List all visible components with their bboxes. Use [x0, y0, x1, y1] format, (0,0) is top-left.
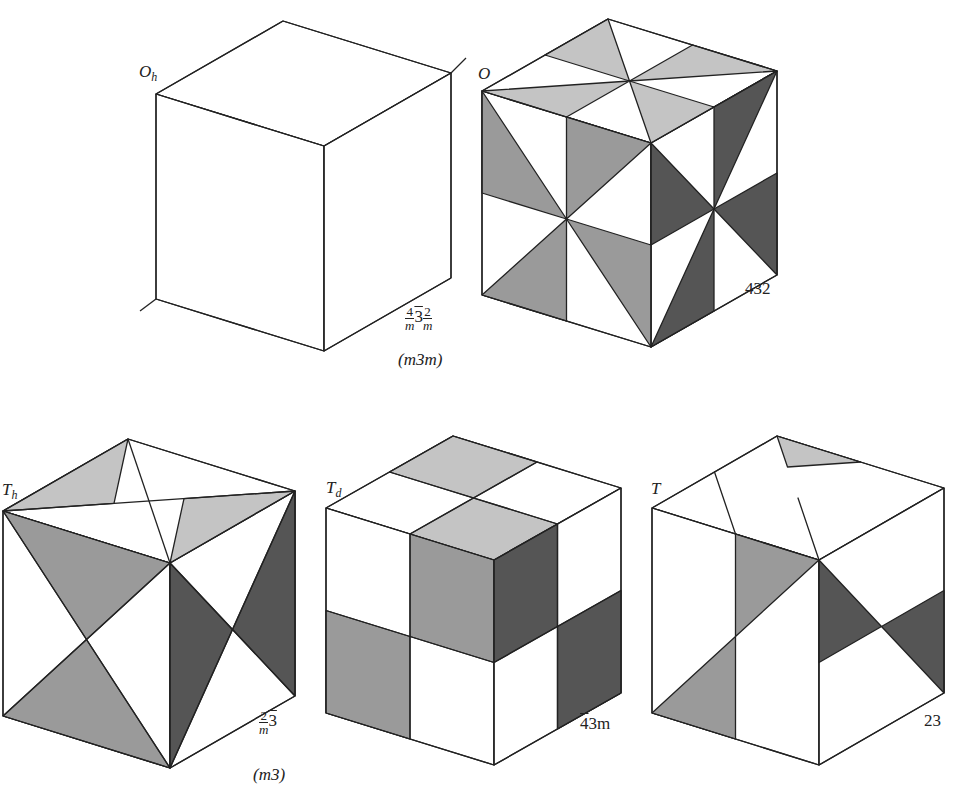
label-Oh: Oh — [139, 63, 157, 83]
point-group-figure — [0, 0, 955, 792]
frac-4-over-m: 4m — [405, 305, 414, 332]
diagonal-axis-stub — [140, 299, 156, 311]
cube-O — [482, 19, 777, 347]
hm-symbol-Td: 43m — [580, 715, 610, 732]
label-O: O — [478, 65, 490, 82]
hm-symbol-Th: 2m3 — [259, 709, 277, 736]
hm-symbol-T: 23 — [924, 712, 941, 729]
label-Th: Th — [2, 481, 17, 501]
hm-short-Th: (m3) — [253, 765, 285, 785]
frac-2-over-m: 2m — [423, 305, 432, 332]
diagonal-axis-stub — [451, 58, 466, 73]
cube-Th — [3, 439, 295, 768]
label-Td: Td — [326, 479, 341, 499]
shaded-region — [777, 436, 861, 467]
cube-Oh — [140, 21, 466, 351]
cube-Td — [326, 436, 621, 765]
hm-symbol-O: 432 — [745, 280, 771, 297]
cube-T — [652, 436, 944, 765]
label-T: T — [651, 480, 660, 497]
frac-2-over-m: 2m — [259, 709, 268, 736]
hm-short-Oh: (m3m) — [398, 350, 442, 370]
hm-symbol-Oh: 4m32m — [405, 305, 432, 332]
